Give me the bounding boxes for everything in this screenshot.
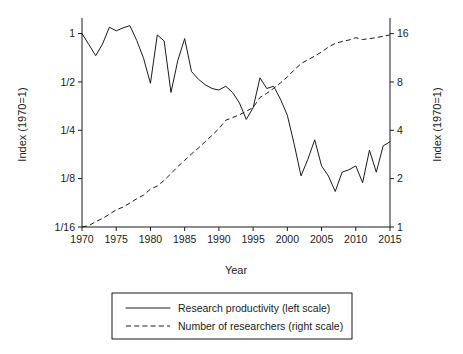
x-axis-title: Year	[225, 264, 248, 276]
y-axis-right-tick-label: 16	[397, 27, 409, 39]
chart-figure: 11/21/41/81/1616842119701975198019851990…	[0, 0, 463, 354]
legend-box	[112, 293, 352, 339]
y-axis-left-tick-label: 1/16	[55, 221, 76, 233]
y-axis-left-tick-label: 1/8	[60, 172, 75, 184]
y-axis-left-title: Index (1970=1)	[16, 87, 28, 161]
x-axis-tick-label: 1990	[207, 233, 231, 245]
chart-canvas: 11/21/41/81/1616842119701975198019851990…	[0, 0, 463, 354]
legend-label-2: Number of researchers (right scale)	[178, 320, 343, 332]
x-axis-tick-label: 1980	[139, 233, 163, 245]
y-axis-right-tick-label: 2	[397, 172, 403, 184]
y-axis-right-tick-label: 1	[397, 221, 403, 233]
y-axis-left-tick-label: 1	[69, 27, 75, 39]
x-axis-tick-label: 2000	[276, 233, 300, 245]
series-line-1	[82, 26, 390, 192]
y-axis-left-tick-label: 1/2	[60, 76, 75, 88]
x-axis-tick-label: 1970	[70, 233, 94, 245]
legend-label-1: Research productivity (left scale)	[178, 302, 330, 314]
y-axis-right-tick-label: 8	[397, 76, 403, 88]
x-axis-tick-label: 2010	[344, 233, 368, 245]
x-axis-tick-label: 2015	[378, 233, 402, 245]
series-line-2	[82, 35, 390, 227]
x-axis-tick-label: 1985	[173, 233, 197, 245]
y-axis-right-tick-label: 4	[397, 124, 403, 136]
y-axis-left-tick-label: 1/4	[60, 124, 75, 136]
x-axis-tick-label: 1975	[105, 233, 129, 245]
y-axis-right-title: Index (1970=1)	[431, 87, 443, 161]
x-axis-tick-label: 2005	[310, 233, 334, 245]
line-chart-svg: 11/21/41/81/1616842119701975198019851990…	[0, 0, 463, 354]
x-axis-tick-label: 1995	[241, 233, 265, 245]
